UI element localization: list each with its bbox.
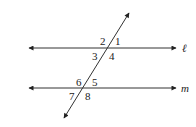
parallel-lines-diagram: ℓ m 2 1 3 4 6 5 7 8 bbox=[0, 0, 196, 127]
angle-5-label: 5 bbox=[92, 76, 98, 88]
angle-8-label: 8 bbox=[85, 90, 91, 102]
angle-1-label: 1 bbox=[115, 35, 121, 47]
angle-3-label: 3 bbox=[92, 50, 98, 62]
angle-6-label: 6 bbox=[76, 76, 82, 88]
transversal bbox=[64, 13, 129, 118]
angle-4-label: 4 bbox=[109, 50, 115, 62]
line-m-label: m bbox=[181, 82, 189, 94]
angle-7-label: 7 bbox=[69, 90, 75, 102]
angle-2-label: 2 bbox=[100, 35, 106, 47]
line-l-label: ℓ bbox=[182, 42, 187, 54]
